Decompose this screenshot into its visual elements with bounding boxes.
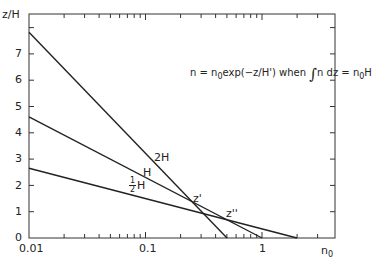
formula-part: n dz = n — [317, 67, 359, 78]
x-axis-label: n0 — [321, 245, 333, 259]
formula-part: n = n — [190, 67, 217, 78]
y-tick-label: 2 — [10, 180, 22, 191]
x-axis-label-n: n — [321, 244, 328, 257]
formula-part: H — [364, 67, 372, 78]
fraction-half: 12 — [129, 177, 136, 194]
y-axis-label: z/H — [2, 9, 20, 20]
y-tick-label: 5 — [10, 101, 22, 112]
series-label-half-H: 12H — [129, 177, 145, 194]
y-tick-label: 6 — [10, 74, 22, 85]
fraction-den: 2 — [130, 186, 135, 194]
formula-part: exp(−z/H') when — [223, 67, 310, 78]
intersection-label-z-prime: z' — [193, 193, 202, 204]
x-tick-label-0.01: 0.01 — [19, 243, 44, 254]
y-ticks-right — [330, 28, 335, 212]
y-tick-label: 7 — [10, 48, 22, 59]
y-tick-label: 4 — [10, 127, 22, 138]
plot-frame — [29, 14, 335, 238]
y-tick-label: 3 — [10, 153, 22, 164]
formula-annotation: n = n0exp(−z/H') when ∫n dz = n0H — [190, 67, 372, 82]
series-line-half-H — [29, 168, 297, 238]
series-label-half-H-text: H — [137, 179, 145, 192]
series-line-2H — [29, 32, 227, 238]
x-ticks-top — [64, 14, 318, 20]
series-label-2H: 2H — [154, 152, 169, 163]
x-axis-label-sub: 0 — [328, 250, 333, 259]
integral-symbol: ∫ — [309, 65, 317, 83]
y-tick-label: 1 — [10, 206, 22, 217]
x-tick-label-1: 1 — [259, 243, 266, 254]
x-tick-label-0.1: 0.1 — [139, 243, 157, 254]
intersection-label-z-double-prime: z'' — [226, 208, 238, 219]
